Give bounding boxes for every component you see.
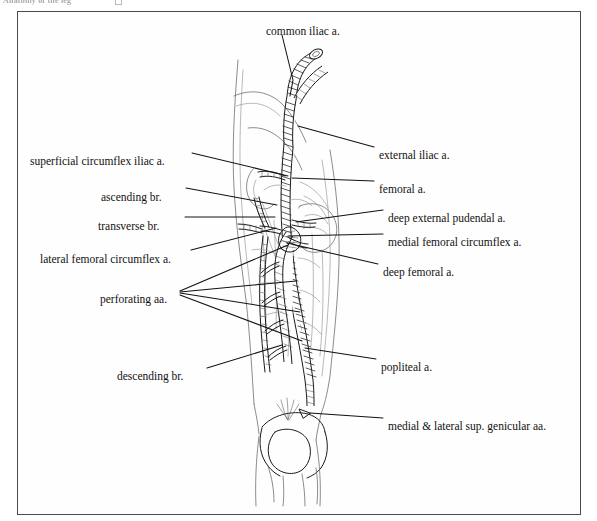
label-popliteal-a: popliteal a. bbox=[381, 362, 432, 374]
label-lateral-femoral-circumflex-a: lateral femoral circumflex a. bbox=[40, 254, 171, 266]
label-femoral-a: femoral a. bbox=[379, 184, 426, 196]
label-external-iliac-a: external iliac a. bbox=[379, 150, 450, 162]
label-descending-br: descending br. bbox=[117, 371, 183, 383]
label-ascending-br: ascending br. bbox=[101, 192, 162, 204]
label-perforating-aa: perforating aa. bbox=[100, 294, 167, 306]
knee-joint bbox=[254, 398, 327, 506]
label-superficial-circumflex-iliac-a: superficial circumflex iliac a. bbox=[30, 156, 165, 168]
anatomical-figure: Anatomy of the leg .ink{fill:none;stroke… bbox=[0, 0, 597, 521]
label-medial-lateral-sup-genicular-aa: medial & lateral sup. genicular aa. bbox=[388, 421, 546, 433]
arterial-tree bbox=[238, 47, 328, 406]
label-transverse-br: transverse br. bbox=[98, 221, 159, 233]
label-medial-femoral-circumflex-a: medial femoral circumflex a. bbox=[388, 237, 521, 249]
label-common-iliac-a: common iliac a. bbox=[266, 26, 340, 38]
label-deep-external-pudendal-a: deep external pudendal a. bbox=[388, 213, 506, 225]
label-deep-femoral-a: deep femoral a. bbox=[383, 267, 454, 279]
